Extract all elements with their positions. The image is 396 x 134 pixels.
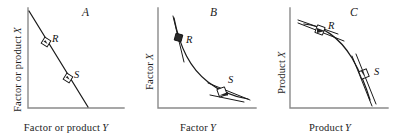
panel-c-y-axis-label-text: Product [276,60,287,94]
panel-a-y-axis-label-var: X [12,27,23,36]
panel-a-x-axis-label-var: Y [100,122,108,133]
three-panel-economics-figure: A R S Factor or productY Factor or produ… [0,0,396,134]
panel-b-tangent-s [208,83,250,100]
panel-c-axes [290,8,388,108]
panel-a-axes [28,8,124,108]
panel-b-y-axis-label: FactorX [144,53,155,90]
panel-c-x-axis-label-var: Y [343,122,351,133]
panel-a-x-axis-label-text: Factor or product [24,122,100,133]
panel-c-y-axis-label-var: X [276,51,287,60]
panel-a-letter: A [82,6,89,18]
panel-c-point-label-s: S [374,66,379,77]
panel-b-curve [174,18,248,99]
panel-c-tangent-s [352,56,372,106]
panel-b-marker-r [174,33,183,42]
panel-c-x-axis-label: ProductY [264,122,396,133]
panel-c: C R S ProductY ProductX [264,0,396,134]
panel-b: B R S FactorY FactorX [132,0,264,134]
panel-a-line [29,11,88,107]
panel-b-y-axis-label-text: Factor [144,62,155,90]
panel-a-point-label-s: S [74,69,79,80]
panel-c-letter: C [350,6,358,18]
panel-c-x-axis-label-text: Product [309,122,343,133]
panel-b-point-label-s: S [228,74,233,85]
panel-a-x-axis-label: Factor or productY [0,122,132,133]
panel-a-y-axis-label: Factor or productX [12,27,23,112]
panel-a-point-label-r: R [52,33,58,44]
panel-c-curve [304,24,370,100]
panel-c-point-label-r: R [328,20,334,31]
panel-c-y-axis-label: ProductX [276,51,287,94]
panel-b-x-axis-label: FactorY [132,122,264,133]
panel-b-x-axis-label-text: Factor [180,122,208,133]
panel-a: A R S Factor or productY Factor or produ… [0,0,132,134]
panel-b-x-axis-label-var: Y [208,122,216,133]
panel-b-tangent-s2 [210,95,244,102]
panel-a-y-axis-label-text: Factor or product [12,36,23,112]
panel-b-y-axis-label-var: X [144,53,155,62]
panel-b-letter: B [210,6,217,18]
panel-b-point-label-r: R [186,34,192,45]
panel-b-axes [158,8,256,108]
